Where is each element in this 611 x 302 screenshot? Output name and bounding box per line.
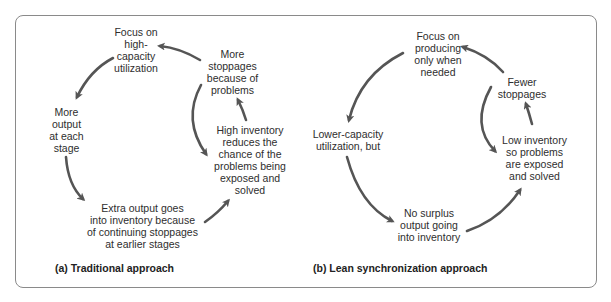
arrow-inventory-to-stoppages — [238, 100, 246, 120]
node-no-surplus: No surplus output going into inventory — [394, 207, 464, 243]
arrow-output-to-extra — [66, 157, 83, 199]
arrow-nosurplus-to-low — [467, 190, 520, 231]
caption-lean: (b) Lean synchronization approach — [313, 262, 487, 274]
node-more-stoppages: More stoppages because of problems — [200, 48, 265, 96]
node-high-inventory: High inventory reduces the chance of the… — [205, 124, 295, 196]
node-lower-capacity: Lower-capacity utilization, but — [308, 128, 388, 152]
node-focus-high-capacity: Focus on high- capacity utilization — [106, 26, 166, 74]
node-low-inventory: Low inventory so problems are exposed an… — [497, 134, 572, 182]
node-focus-producing: Focus on producing only when needed — [408, 30, 468, 78]
node-fewer-stoppages: Fewer stoppages — [492, 76, 552, 100]
arrow-lower-to-nosurplus — [347, 157, 392, 221]
caption-traditional: (a) Traditional approach — [55, 262, 174, 274]
node-more-output: More output at each stage — [44, 106, 89, 154]
arrow-low-to-fewer — [526, 104, 532, 124]
arrow-focus-to-lower — [349, 53, 403, 120]
arrow-fewer-to-focus — [463, 47, 503, 72]
arrow-stoppages-to-focus — [160, 46, 200, 60]
arrow-extra-to-inventory — [205, 201, 228, 222]
node-extra-output: Extra output goes into inventory because… — [80, 202, 205, 250]
